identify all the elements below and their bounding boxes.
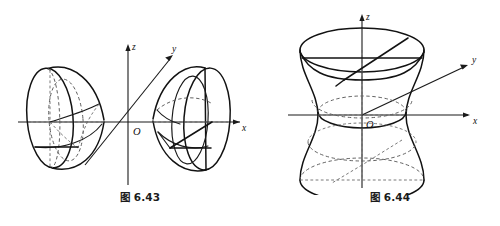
left-sheet-upper-silhouette [48, 67, 104, 120]
right-sheet-hidden-section-arc [157, 98, 211, 110]
left-y-axis-arrowhead [165, 55, 173, 61]
left-y-axis-label: y [171, 44, 177, 54]
upper-ruling-continuation [336, 80, 344, 86]
left-origin-label: O [133, 126, 141, 137]
left-x-axis-label: x [241, 123, 247, 133]
right-y-axis-label: y [471, 55, 477, 65]
caption-figure-6-44: 图 6.44 [330, 189, 450, 204]
left-z-axis-label: z [131, 42, 136, 52]
figure-hyperboloid-two-sheets: x z y O [0, 0, 250, 190]
right-z-axis-label: z [365, 12, 370, 22]
left-sheet-section-curve-lower [35, 124, 102, 148]
left-sheet-section-far-arc [78, 104, 99, 148]
right-x-axis-arrowhead [463, 112, 470, 117]
figure-hyperboloid-one-sheet: x z y O [250, 0, 500, 195]
left-z-axis-arrowhead [125, 44, 130, 51]
left-axes [18, 44, 240, 185]
left-sheet-section-curve-upper [50, 104, 99, 122]
caption-figure-6-43: 图 6.43 [80, 189, 200, 204]
right-sheet-rim-meridian [205, 68, 206, 170]
right-z-axis-arrowhead [359, 14, 364, 21]
right-sheet-rim-ellipse [180, 67, 233, 172]
left-sheet-negative-x [23, 66, 104, 170]
right-x-axis-label: x [472, 116, 478, 126]
upper-ruling-line [344, 38, 408, 80]
right-y-axis [362, 67, 464, 115]
figure-board: x z y O [0, 0, 500, 226]
left-figure-sheet-positive-x [153, 67, 234, 172]
left-sheet-interior-ellipse [45, 78, 86, 163]
left-x-axis-arrowhead [233, 119, 240, 124]
right-sheet-lower-silhouette [153, 121, 206, 171]
